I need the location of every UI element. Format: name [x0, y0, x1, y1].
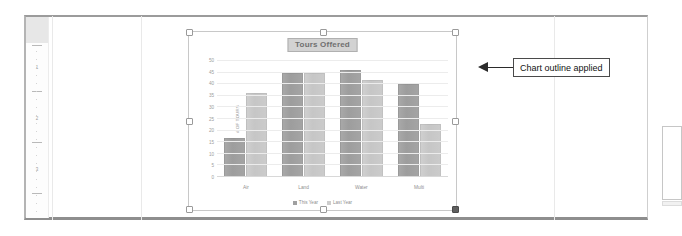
bar[interactable] [420, 124, 441, 177]
selection-handle-middle-right[interactable] [452, 118, 459, 125]
margin-guide-left [52, 16, 53, 220]
legend-label: Last Year [333, 200, 352, 205]
ruler-margin-shade [26, 17, 48, 43]
ruler-tick [32, 45, 42, 46]
legend-swatch-icon [293, 201, 297, 205]
ruler-mark-label: 3 [29, 167, 45, 172]
side-panel-fragment[interactable] [662, 126, 682, 200]
y-tick-label: 5 [211, 163, 214, 168]
ruler-minor-dot [36, 131, 37, 132]
ruler-minor-dot [36, 155, 37, 156]
y-gridline: 25 [217, 118, 448, 119]
y-tick-label: 20 [209, 128, 214, 133]
chart-object[interactable]: Tours Offered # OF TOURS 051015202530354… [188, 31, 457, 211]
y-gridline: 50 [217, 60, 448, 61]
bar[interactable] [282, 73, 303, 177]
ruler-mark-label: 2 [29, 116, 45, 121]
bar-group [333, 61, 391, 177]
legend-label: This Year [299, 200, 318, 205]
side-panel-footer-fragment[interactable] [662, 201, 682, 206]
bar-group [390, 61, 448, 177]
y-tick-label: 45 [209, 69, 214, 74]
x-axis-label: Air [217, 185, 275, 190]
y-gridline: 45 [217, 72, 448, 73]
y-tick-label: 40 [209, 81, 214, 86]
ruler-tick [32, 193, 42, 194]
y-gridline: 30 [217, 106, 448, 107]
y-gridline: 10 [217, 153, 448, 154]
y-tick-label: 35 [209, 93, 214, 98]
x-axis-label: Multi [390, 185, 448, 190]
ruler-minor-dot [36, 195, 37, 196]
y-tick-label: 30 [209, 104, 214, 109]
bar-group [217, 61, 275, 177]
bar[interactable] [224, 138, 245, 177]
legend-item[interactable]: Last Year [327, 200, 352, 205]
ruler-minor-dot [36, 91, 37, 92]
ruler-minor-dot [36, 83, 37, 84]
chart-legend[interactable]: This YearLast Year [189, 200, 456, 205]
ruler-minor-dot [36, 51, 37, 52]
selection-handle-bottom-center[interactable] [320, 206, 327, 213]
ruler-minor-dot [36, 163, 37, 164]
y-gridline: 5 [217, 164, 448, 165]
ruler-minor-dot [36, 171, 37, 172]
x-axis-label: Water [333, 185, 391, 190]
selection-handle-top-center[interactable] [320, 29, 327, 36]
x-axis-label: Land [275, 185, 333, 190]
selection-handle-bottom-left[interactable] [186, 206, 193, 213]
y-tick-label: 0 [211, 175, 214, 180]
callout-label: Chart outline applied [513, 58, 610, 77]
ruler-minor-dot [36, 99, 37, 100]
ruler-minor-dot [36, 107, 37, 108]
ruler-minor-dot [36, 115, 37, 116]
margin-guide-inner [141, 16, 142, 220]
bar-group [275, 61, 333, 177]
legend-item[interactable]: This Year [293, 200, 318, 205]
ruler-minor-dot [36, 67, 37, 68]
y-gridline: 20 [217, 130, 448, 131]
bar[interactable] [340, 70, 361, 177]
ruler-minor-dot [36, 187, 37, 188]
y-tick-label: 15 [209, 139, 214, 144]
chart-title[interactable]: Tours Offered [287, 38, 358, 52]
ruler-tick [32, 142, 42, 143]
x-axis-labels: AirLandWaterMulti [217, 185, 448, 190]
y-tick-label: 25 [209, 116, 214, 121]
ruler-minor-dot [36, 147, 37, 148]
bar-groups [217, 61, 448, 177]
ruler-minor-dot [36, 179, 37, 180]
chart-plot-area[interactable]: # OF TOURS 05101520253035404550 [217, 61, 448, 177]
callout-leader-line [487, 67, 514, 68]
y-gridline: 0 [217, 176, 448, 177]
y-gridline: 40 [217, 83, 448, 84]
y-tick-label: 10 [209, 151, 214, 156]
ruler-tick [32, 91, 42, 92]
ruler-minor-dot [36, 123, 37, 124]
y-gridline: 15 [217, 141, 448, 142]
ruler-minor-dot [36, 59, 37, 60]
selection-handle-bottom-right[interactable] [452, 206, 459, 213]
ruler-minor-dot [36, 203, 37, 204]
ruler-mark-label: 1 [29, 65, 45, 70]
selection-handle-top-right[interactable] [452, 29, 459, 36]
ruler-minor-dot [36, 139, 37, 140]
selection-handle-top-left[interactable] [186, 29, 193, 36]
legend-swatch-icon [327, 201, 331, 205]
y-gridline: 35 [217, 95, 448, 96]
ruler-minor-dot [36, 211, 37, 212]
margin-guide-right [554, 16, 555, 220]
ruler-minor-dot [36, 75, 37, 76]
y-tick-label: 50 [209, 58, 214, 63]
selection-handle-middle-left[interactable] [186, 118, 193, 125]
bar[interactable] [304, 73, 325, 177]
vertical-ruler[interactable]: 123 [26, 17, 49, 218]
